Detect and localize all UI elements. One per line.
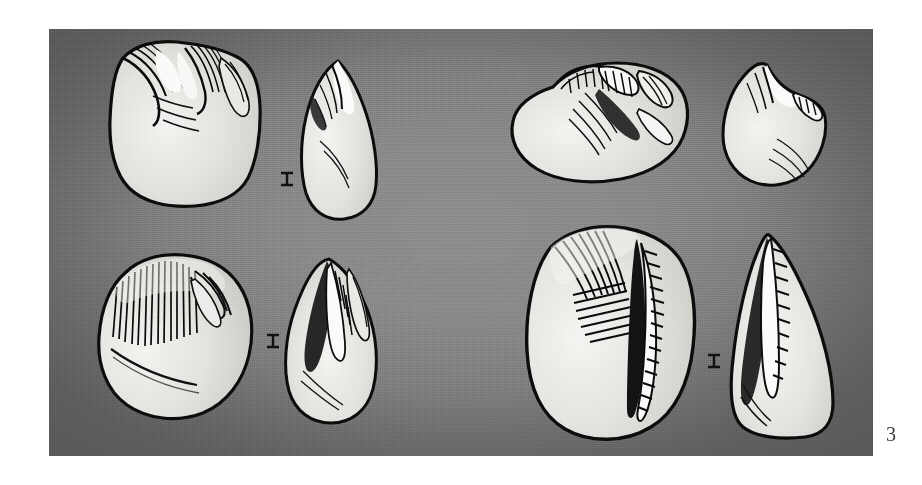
specimen-4-lateral-view [717,225,845,447]
figure-number: 3 [886,424,896,444]
specimen-2-occlusal-view [499,49,699,194]
specimen-3-lateral-view [273,251,389,431]
specimen-1-lateral-view [290,55,386,227]
plate-subject-label: fossil tooth specimens [0,0,1,1]
illustration-plate [49,29,873,456]
specimen-3-occlusal-view [77,245,279,430]
specimen-1-occlusal-view [93,36,283,216]
figure-page: 3 fossil tooth specimens stippled pen-an… [0,0,922,485]
specimen-4-occlusal-view [489,217,719,447]
plate-medium-label: stippled pen-and-ink drawing on gray pho… [0,0,1,1]
specimen-2-lateral-view [711,53,835,198]
